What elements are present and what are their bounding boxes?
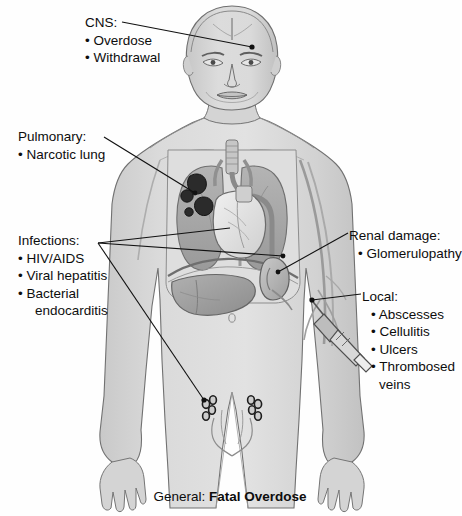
label-pulmonary-heading: Pulmonary: xyxy=(18,128,105,146)
label-local-item-0: • Abscesses xyxy=(362,306,455,324)
label-local-item-3: • Thrombosed xyxy=(362,358,455,376)
label-renal-heading: Renal damage: xyxy=(349,227,462,245)
label-renal-damage: Renal damage: • Glomerulopathy xyxy=(349,227,462,262)
label-infections-continuation: endocarditis xyxy=(18,302,108,320)
label-infections-item-1: • Viral hepatitis xyxy=(18,267,108,285)
label-infections-item-2: • Bacterial xyxy=(18,285,108,303)
label-pulmonary-item-0: • Narcotic lung xyxy=(18,146,105,164)
label-infections: Infections: • HIV/AIDS • Viral hepatitis… xyxy=(18,232,108,320)
label-cns-heading: CNS: xyxy=(85,14,160,32)
label-local-heading: Local: xyxy=(362,288,455,306)
label-cns: CNS: • Overdose • Withdrawal xyxy=(85,14,160,67)
figure-caption: General: Fatal Overdose xyxy=(0,489,460,504)
label-local-continuation: veins xyxy=(362,376,455,394)
label-local-item-2: • Ulcers xyxy=(362,341,455,359)
caption-emphasis: Fatal Overdose xyxy=(209,489,307,504)
caption-prefix: General: xyxy=(153,489,205,504)
label-infections-item-0: • HIV/AIDS xyxy=(18,250,108,268)
body-cavity xyxy=(166,140,300,315)
label-cns-item-0: • Overdose xyxy=(85,32,160,50)
label-local-item-1: • Cellulitis xyxy=(362,323,455,341)
label-pulmonary: Pulmonary: • Narcotic lung xyxy=(18,128,105,163)
label-infections-heading: Infections: xyxy=(18,232,108,250)
label-cns-item-1: • Withdrawal xyxy=(85,49,160,67)
trachea xyxy=(226,140,238,174)
label-local: Local: • Abscesses • Cellulitis • Ulcers… xyxy=(362,288,455,393)
label-renal-item-0: • Glomerulopathy xyxy=(349,245,462,263)
